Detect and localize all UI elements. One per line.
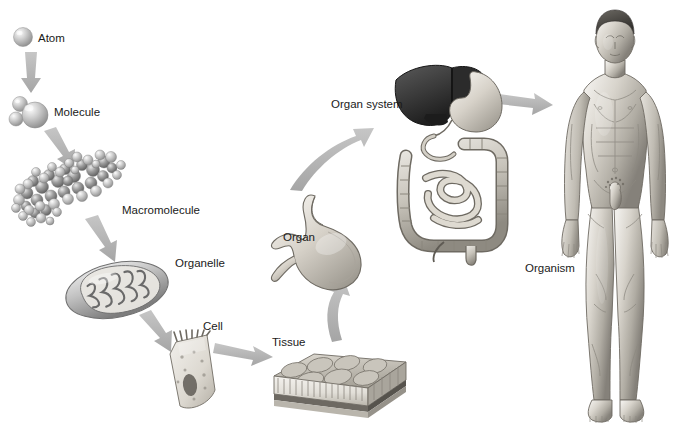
molecule-figure [8,92,56,132]
macromolecule-figure [8,148,140,238]
arrow-cell-to-tissue [213,343,273,366]
digestive-system-icon [395,65,507,265]
epithelial-cell-icon [170,330,215,408]
mitochondrion-icon [61,253,174,327]
label-macromolecule: Macromolecule [122,205,200,217]
label-organ: Organ [283,232,315,244]
organ-system-figure [390,58,520,258]
human-body-icon [562,10,668,423]
epithelial-tissue-icon [274,353,406,418]
organism-figure [548,4,678,428]
label-tissue: Tissue [272,337,305,349]
atom-figure [10,24,36,50]
label-organelle: Organelle [175,258,225,270]
label-molecule: Molecule [54,107,100,119]
arrow-atom-to-molecule [21,52,41,93]
protein-spacefill-icon [12,150,126,227]
label-cell: Cell [203,321,223,333]
organization-levels-diagram: Atom Molecule [0,0,694,431]
organelle-figure [62,258,172,322]
arrow-organ-to-organ-system [290,128,374,191]
label-organism: Organism [525,263,575,275]
label-atom: Atom [38,33,65,45]
label-organ-system: Organ system [331,99,403,111]
tissue-figure [270,348,410,424]
sphere-atom-icon [14,28,33,47]
cell-figure [160,330,222,416]
